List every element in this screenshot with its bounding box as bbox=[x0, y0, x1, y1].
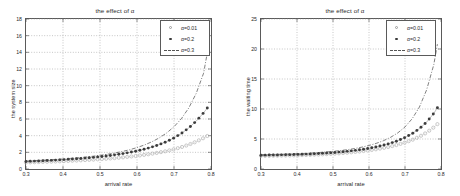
y-tick-label: 4 bbox=[9, 133, 22, 139]
figure-system-size: the effect of α the system size arrival … bbox=[0, 0, 230, 196]
y-tick-label: 25 bbox=[244, 16, 257, 22]
figure-canvas: the effect of α the system size arrival … bbox=[0, 0, 460, 196]
x-axis-label: arrival rate bbox=[260, 181, 442, 188]
legend-label: α=0.2 bbox=[407, 36, 420, 43]
chart-title: the effect of α bbox=[0, 7, 230, 15]
x-tick-label: 0.4 bbox=[289, 171, 305, 177]
legend-label: α=0.01 bbox=[407, 25, 423, 32]
x-tick-label: 0.6 bbox=[361, 171, 377, 177]
dashdot-line-icon bbox=[387, 44, 407, 56]
chart-title: the effect of α bbox=[230, 7, 460, 15]
x-tick-label: 0.3 bbox=[253, 171, 269, 177]
legend: α=0.01 α=0.2 α=0.3 bbox=[160, 20, 210, 56]
legend-item: α=0.3 bbox=[387, 44, 435, 56]
x-tick-label: 0.6 bbox=[129, 171, 145, 177]
legend: α=0.01 α=0.2 α=0.3 bbox=[386, 20, 436, 56]
x-tick-label: 0.8 bbox=[433, 171, 449, 177]
x-tick-label: 0.8 bbox=[203, 171, 219, 177]
y-tick-label: 15 bbox=[244, 76, 257, 82]
y-tick-label: 20 bbox=[244, 46, 257, 52]
y-tick-label: 12 bbox=[9, 66, 22, 72]
x-tick-label: 0.7 bbox=[166, 171, 182, 177]
legend-label: α=0.01 bbox=[181, 25, 197, 32]
y-tick-label: 2 bbox=[9, 149, 22, 155]
y-tick-label: 8 bbox=[9, 99, 22, 105]
x-axis-label: arrival rate bbox=[25, 181, 212, 188]
y-tick-label: 10 bbox=[244, 106, 257, 112]
x-tick-label: 0.4 bbox=[55, 171, 71, 177]
x-tick-label: 0.3 bbox=[18, 171, 34, 177]
figure-waiting-time: the effect of α the waiting time arrival… bbox=[230, 0, 460, 196]
dashdot-line-icon bbox=[161, 44, 181, 56]
y-tick-label: 6 bbox=[9, 116, 22, 122]
y-tick-label: 14 bbox=[9, 49, 22, 55]
legend-label: α=0.3 bbox=[407, 47, 420, 54]
x-tick-label: 0.5 bbox=[92, 171, 108, 177]
y-tick-label: 10 bbox=[9, 83, 22, 89]
x-tick-label: 0.5 bbox=[325, 171, 341, 177]
y-tick-label: 16 bbox=[9, 33, 22, 39]
x-tick-label: 0.7 bbox=[397, 171, 413, 177]
legend-item: α=0.3 bbox=[161, 44, 209, 56]
legend-label: α=0.2 bbox=[181, 36, 194, 43]
legend-label: α=0.3 bbox=[181, 47, 194, 54]
y-tick-label: 5 bbox=[244, 136, 257, 142]
y-tick-label: 18 bbox=[9, 16, 22, 22]
